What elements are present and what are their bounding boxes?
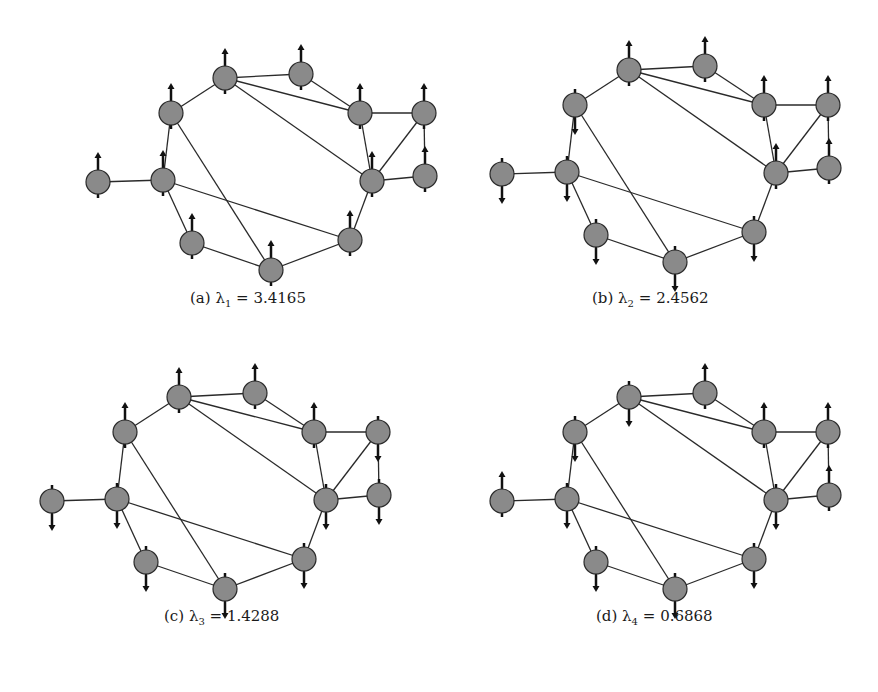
equals-sign: = — [210, 607, 223, 625]
arrowhead-icon — [323, 524, 330, 530]
arrowhead-icon — [222, 48, 229, 54]
node-circle — [584, 223, 608, 247]
arrowhead-icon — [761, 402, 768, 408]
spin-node — [412, 83, 436, 129]
arrowhead-icon — [369, 151, 376, 157]
lambda-index: 4 — [632, 616, 638, 627]
spin-node — [167, 367, 191, 413]
spin-node — [752, 75, 776, 121]
panel-d-graph — [490, 363, 841, 619]
spin-node — [555, 156, 579, 202]
arrowhead-icon — [499, 198, 506, 204]
eigenvalue: 3.4165 — [253, 289, 306, 307]
caption-label: (b) — [592, 289, 613, 307]
spin-node — [816, 75, 840, 121]
node-circle — [105, 487, 129, 511]
node-circle — [563, 420, 587, 444]
spin-node — [366, 416, 390, 462]
node-circle — [159, 101, 183, 125]
arrowhead-icon — [49, 525, 56, 531]
arrowhead-icon — [357, 83, 364, 89]
arrowhead-icon — [421, 83, 428, 89]
node-circle — [663, 250, 687, 274]
panel-a-graph — [86, 44, 437, 286]
spin-node — [663, 246, 687, 292]
arrowhead-icon — [95, 152, 102, 158]
node-circle — [151, 168, 175, 192]
arrowhead-icon — [593, 586, 600, 592]
arrowhead-icon — [176, 367, 183, 373]
spin-node — [752, 402, 776, 448]
spin-node — [367, 479, 391, 525]
lambda-index: 2 — [628, 298, 634, 309]
node-circle — [490, 162, 514, 186]
node-circle — [366, 420, 390, 444]
node-circle — [348, 101, 372, 125]
node-circle — [742, 547, 766, 571]
arrowhead-icon — [702, 363, 709, 369]
arrowhead-icon — [773, 524, 780, 530]
graph-edge — [629, 70, 776, 173]
caption-panel-c: (c) λ3 = 1.4288 — [164, 607, 279, 627]
node-circle — [367, 483, 391, 507]
arrowhead-icon — [252, 363, 259, 369]
panel-b-graph — [490, 36, 841, 292]
lambda-symbol: λ — [215, 289, 225, 307]
spin-node — [490, 158, 514, 204]
equals-sign: = — [639, 289, 652, 307]
lambda-symbol: λ — [622, 607, 632, 625]
spin-node — [302, 402, 326, 448]
arrowhead-icon — [702, 36, 709, 42]
node-circle — [302, 420, 326, 444]
arrowhead-icon — [825, 75, 832, 81]
node-circle — [752, 93, 776, 117]
equals-sign: = — [643, 607, 656, 625]
node-circle — [617, 58, 641, 82]
eigenvalue: 2.4562 — [656, 289, 709, 307]
node-circle — [113, 420, 137, 444]
arrowhead-icon — [499, 471, 506, 477]
spin-node — [817, 138, 841, 184]
spin-node — [413, 146, 437, 192]
node-circle — [816, 420, 840, 444]
node-circle — [816, 93, 840, 117]
spin-node — [817, 465, 841, 511]
graph-edge — [179, 397, 326, 500]
node-circle — [314, 488, 338, 512]
node-circle — [213, 577, 237, 601]
lambda-symbol: λ — [618, 289, 628, 307]
arrowhead-icon — [189, 213, 196, 219]
arrowhead-icon — [268, 240, 275, 246]
spin-node — [105, 483, 129, 529]
eigenvalue: 0.6868 — [660, 607, 713, 625]
arrowhead-icon — [122, 402, 129, 408]
node-circle — [292, 547, 316, 571]
arrowhead-icon — [751, 256, 758, 262]
node-circle — [584, 550, 608, 574]
spin-node — [292, 543, 316, 589]
lambda-symbol: λ — [189, 607, 199, 625]
arrowhead-icon — [761, 75, 768, 81]
arrowhead-icon — [751, 583, 758, 589]
node-circle — [764, 161, 788, 185]
arrowhead-icon — [298, 44, 305, 50]
spin-node — [180, 213, 204, 259]
caption-panel-d: (d) λ4 = 0.6868 — [596, 607, 713, 627]
node-circle — [338, 228, 362, 252]
arrowhead-icon — [826, 465, 833, 471]
spin-node — [134, 546, 158, 592]
spin-node — [584, 219, 608, 265]
node-circle — [563, 93, 587, 117]
spin-node — [764, 143, 788, 189]
spin-node — [617, 40, 641, 86]
node-circle — [213, 66, 237, 90]
arrowhead-icon — [376, 519, 383, 525]
arrowhead-icon — [626, 421, 633, 427]
spin-node — [742, 543, 766, 589]
arrowhead-icon — [564, 523, 571, 529]
node-circle — [167, 385, 191, 409]
arrowhead-icon — [564, 196, 571, 202]
node-circle — [555, 487, 579, 511]
arrowhead-icon — [773, 143, 780, 149]
panel-c-graph — [40, 363, 391, 619]
